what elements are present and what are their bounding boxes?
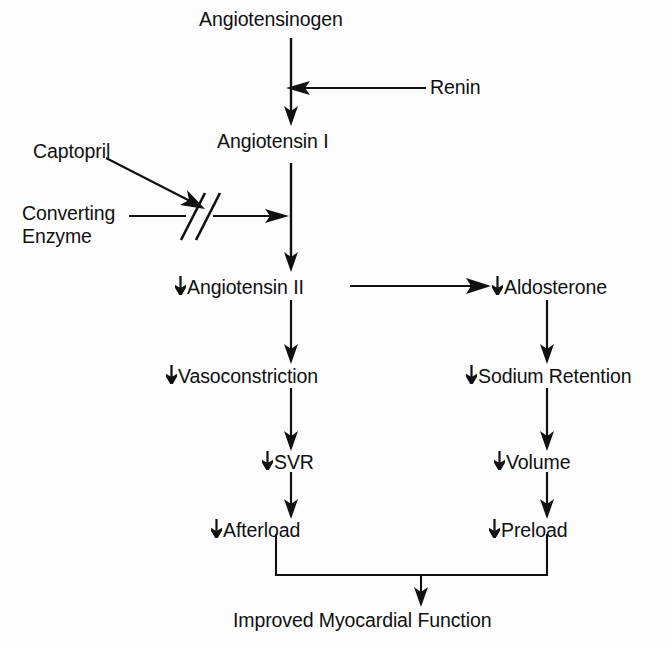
node-converting-enzyme-label-line2: Enzyme [22, 225, 115, 248]
decrease-arrow-icon [494, 451, 505, 470]
node-sodium-retention: Sodium Retention [466, 364, 631, 387]
node-preload: Preload [489, 518, 568, 541]
node-renin-label: Renin [430, 76, 480, 98]
node-afterload-label: Afterload [223, 519, 300, 541]
node-angiotensin-i: Angiotensin I [217, 130, 328, 152]
decrease-arrow-icon [466, 365, 477, 384]
edge-svr-to-afterload [284, 472, 298, 519]
edge-angiotensinogen-to-angiotensin-i [284, 38, 298, 126]
node-angiotensin-ii: Angiotensin II [175, 275, 304, 298]
node-angiotensin-ii-label: Angiotensin II [187, 276, 304, 298]
decrease-arrow-icon [166, 365, 177, 384]
decrease-arrow-icon [262, 451, 273, 470]
node-improved-myocardial-function: Improved Myocardial Function [233, 609, 491, 631]
node-aldosterone-label: Aldosterone [504, 276, 607, 298]
diagram-connectors [0, 0, 672, 648]
edge-sodium-retention-to-volume [540, 388, 554, 451]
edge-angiotensin-i-to-angiotensin-ii [284, 163, 298, 272]
edge-captopril-to-blockade [106, 158, 205, 209]
decrease-arrow-icon [489, 519, 500, 538]
edge-aldosterone-to-sodium-retention [540, 300, 554, 364]
node-volume-label: Volume [506, 451, 570, 473]
node-svr-label: SVR [274, 451, 314, 473]
node-angiotensinogen: Angiotensinogen [199, 8, 343, 30]
node-aldosterone: Aldosterone [492, 275, 607, 298]
node-vasoconstriction: Vasoconstriction [166, 364, 318, 387]
edge-vasoconstriction-to-svr [284, 388, 298, 451]
node-angiotensin-i-label: Angiotensin I [217, 130, 328, 152]
node-captopril: Captopril [33, 140, 110, 162]
edge-volume-to-preload [540, 472, 554, 519]
edge-angiotensin-ii-to-vasoconstriction [284, 300, 298, 364]
node-captopril-label: Captopril [33, 140, 110, 162]
node-converting-enzyme: Converting Enzyme [22, 202, 115, 248]
diagram-canvas: Angiotensinogen Renin Captopril Converti… [0, 0, 672, 648]
edge-merge-to-improved-myocardial-function [275, 534, 548, 607]
decrease-arrow-icon [492, 276, 503, 295]
node-afterload: Afterload [211, 518, 300, 541]
node-converting-enzyme-label-line1: Converting [22, 202, 115, 225]
node-preload-label: Preload [501, 519, 568, 541]
node-volume: Volume [494, 450, 570, 473]
node-angiotensinogen-label: Angiotensinogen [199, 8, 343, 30]
node-renin: Renin [430, 76, 480, 98]
node-improved-myocardial-function-label: Improved Myocardial Function [233, 609, 491, 631]
node-svr: SVR [262, 450, 314, 473]
decrease-arrow-icon [211, 519, 222, 538]
node-sodium-retention-label: Sodium Retention [478, 365, 631, 387]
edge-renin-to-spine [286, 81, 426, 95]
node-vasoconstriction-label: Vasoconstriction [178, 365, 318, 387]
edge-angiotensin-ii-to-aldosterone [350, 278, 491, 294]
decrease-arrow-icon [175, 276, 186, 295]
